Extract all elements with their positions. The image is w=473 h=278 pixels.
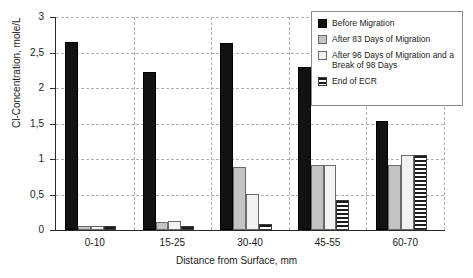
x-tick-label: 0-10 (56, 237, 134, 248)
bar (336, 200, 349, 230)
legend-item: Before Migration (318, 18, 457, 28)
y-tick-label: 3 (4, 12, 44, 22)
bar-group (220, 17, 271, 230)
legend-item-label: After 96 Days of Migration and a Break o… (332, 50, 457, 70)
x-axis-title: Distance from Surface, mm (0, 255, 473, 266)
gridline-x-separator (211, 17, 212, 230)
legend-item-label: End of ECR (332, 76, 377, 86)
legend-item-label: Before Migration (332, 18, 394, 28)
x-tick-label: 30-40 (211, 237, 289, 248)
x-tick-label: 60-70 (366, 237, 444, 248)
bar (104, 226, 117, 230)
bar (168, 221, 181, 230)
y-tick-label: 0 (4, 225, 44, 235)
bar (388, 165, 401, 230)
x-axis-line (55, 230, 445, 231)
bar (298, 67, 311, 230)
bar (414, 155, 427, 230)
solid-white-swatch (318, 51, 327, 60)
bar (233, 167, 246, 230)
bar (401, 155, 414, 230)
bar (376, 121, 389, 230)
bar-group (65, 17, 116, 230)
solid-gray-swatch (318, 35, 327, 44)
bar (143, 72, 156, 230)
bar (91, 226, 104, 230)
legend-item: End of ECR (318, 76, 457, 86)
striped-swatch (318, 77, 327, 86)
bar (181, 226, 194, 230)
bar-group (143, 17, 194, 230)
legend-item: After 83 Days of Migration (318, 34, 457, 44)
bar (156, 222, 169, 230)
y-axis-title-wrapper: Cl-Concentration, mole/L (18, 40, 32, 200)
x-tick-label: 45-55 (289, 237, 367, 248)
gridline-x-separator (289, 17, 290, 230)
bar (78, 226, 91, 230)
bar (311, 165, 324, 230)
chart-container: Cl-Concentration, mole/L 00,511,522,53 0… (0, 0, 473, 278)
bar (259, 224, 272, 230)
bar (65, 42, 78, 230)
bar (324, 165, 337, 230)
gridline-x-separator (134, 17, 135, 230)
chart-legend: Before MigrationAfter 83 Days of Migrati… (311, 11, 463, 106)
y-axis-title: Cl-Concentration, mole/L (12, 0, 22, 128)
legend-item: After 96 Days of Migration and a Break o… (318, 50, 457, 70)
x-tick-label: 15-25 (134, 237, 212, 248)
bar (220, 43, 233, 230)
legend-item-label: After 83 Days of Migration (332, 34, 430, 44)
bar (246, 194, 259, 230)
solid-black-swatch (318, 19, 327, 28)
